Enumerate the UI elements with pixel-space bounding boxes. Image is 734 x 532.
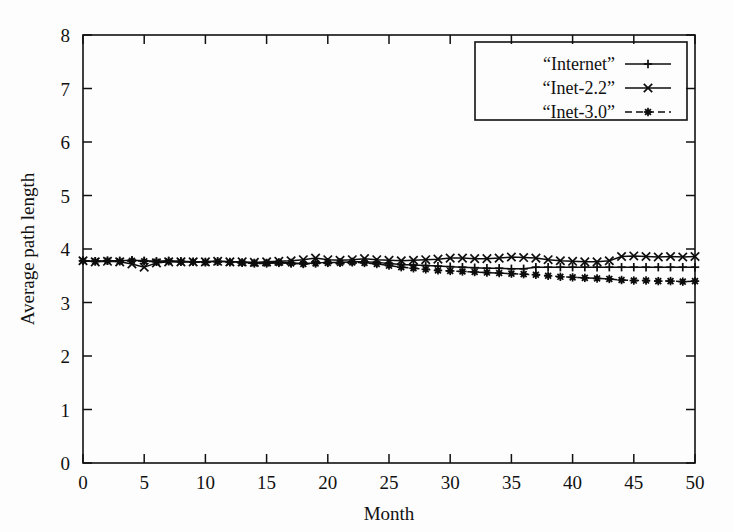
x-tick-label: 15 [257,472,276,493]
x-tick-label: 35 [502,472,521,493]
x-tick-label: 50 [686,472,705,493]
x-tick-label: 25 [380,472,399,493]
x-tick-label: 0 [78,472,88,493]
figure-container: 01234567805101520253035404550MonthAverag… [0,0,734,532]
y-tick-label: 1 [61,400,71,421]
x-tick-label: 30 [441,472,460,493]
average-path-length-chart: 01234567805101520253035404550MonthAverag… [0,0,734,532]
x-tick-label: 20 [318,472,337,493]
y-tick-label: 2 [61,346,71,367]
y-axis-title: Average path length [17,172,38,325]
x-tick-label: 45 [624,472,643,493]
x-tick-label: 5 [139,472,149,493]
y-tick-label: 4 [61,239,71,260]
x-axis-title: Month [364,503,415,524]
y-tick-label: 6 [61,132,71,153]
legend-label: “Inet-2.2” [543,78,615,98]
y-tick-label: 8 [61,25,71,46]
y-tick-label: 3 [61,293,71,314]
legend-label: “Inet-3.0” [543,102,615,122]
legend-label: “Internet” [543,54,615,74]
y-tick-label: 7 [61,79,71,100]
y-tick-label: 5 [61,186,71,207]
x-tick-label: 10 [196,472,215,493]
x-tick-label: 40 [563,472,582,493]
legend: “Internet”“Inet-2.2”“Inet-3.0” [475,42,687,122]
y-tick-label: 0 [61,453,71,474]
